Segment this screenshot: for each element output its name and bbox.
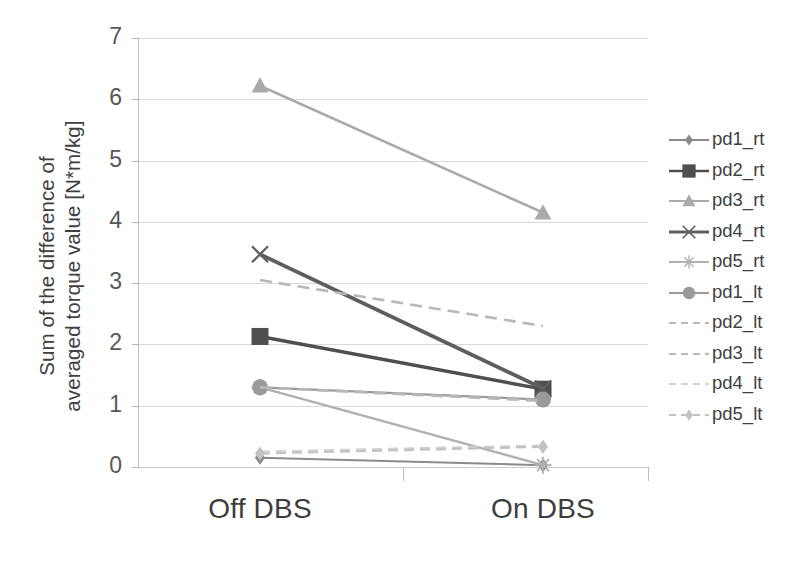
legend-label-pd5_lt: pd5_lt [710, 403, 762, 425]
legend-marker-pd1_rt-icon [668, 130, 710, 148]
y-tick-mark-2 [132, 344, 139, 345]
x-tick-label-on-dbs: On DBS [433, 493, 653, 525]
y-tick-label-6: 6 [12, 84, 122, 111]
legend-marker-pd2_rt-icon [668, 161, 710, 179]
series-pd4_rt [252, 246, 551, 396]
legend-label-pd1_rt: pd1_rt [710, 128, 764, 150]
legend-item-pd5_rt[interactable]: pd5_rt [668, 246, 812, 277]
legend-marker-pd2_lt-icon [668, 313, 710, 331]
legend-label-pd2_rt: pd2_rt [710, 159, 764, 181]
legend-marker-pd5_rt-icon [668, 252, 710, 270]
y-tick-label-5: 5 [12, 146, 122, 173]
x-tick-mark-0 [403, 467, 404, 481]
legend-marker-pd1_lt-icon [668, 283, 710, 301]
x-tick-mark-1 [648, 467, 649, 481]
legend-item-pd4_rt[interactable]: pd4_rt [668, 216, 812, 247]
legend-item-pd2_lt[interactable]: pd2_lt [668, 307, 812, 338]
legend-marker-pd4_lt-icon [668, 374, 710, 392]
y-tick-label-1: 1 [12, 391, 122, 418]
y-tick-mark-1 [132, 406, 139, 407]
y-tick-label-3: 3 [12, 268, 122, 295]
y-tick-mark-3 [132, 283, 139, 284]
y-tick-mark-7 [132, 38, 139, 39]
y-tick-label-0: 0 [12, 452, 122, 479]
legend-item-pd1_lt[interactable]: pd1_lt [668, 277, 812, 308]
y-tick-label-7: 7 [12, 23, 122, 50]
legend-label-pd2_lt: pd2_lt [710, 311, 762, 333]
legend-label-pd4_lt: pd4_lt [710, 372, 762, 394]
series-pd2_rt [252, 328, 552, 398]
chart-container: Sum of the difference of averaged torque… [0, 0, 812, 573]
legend-label-pd3_lt: pd3_lt [710, 342, 762, 364]
series-pd3_rt [252, 77, 552, 219]
gridline-y-0 [138, 467, 648, 468]
legend-marker-pd3_rt-icon [668, 191, 710, 209]
legend-item-pd3_rt[interactable]: pd3_rt [668, 185, 812, 216]
x-tick-label-off-dbs: Off DBS [150, 493, 370, 525]
y-tick-mark-6 [132, 99, 139, 100]
legend-label-pd4_rt: pd4_rt [710, 220, 764, 242]
y-tick-mark-4 [132, 222, 139, 223]
legend-label-pd5_rt: pd5_rt [710, 250, 764, 272]
legend-marker-pd4_rt-icon [668, 222, 710, 240]
legend-item-pd3_lt[interactable]: pd3_lt [668, 338, 812, 369]
legend-item-pd1_rt[interactable]: pd1_rt [668, 124, 812, 155]
y-tick-mark-5 [132, 161, 139, 162]
legend-marker-pd5_lt-icon [668, 405, 710, 423]
y-tick-label-4: 4 [12, 207, 122, 234]
legend-label-pd1_lt: pd1_lt [710, 281, 762, 303]
series-pd3_lt [260, 280, 543, 326]
legend-item-pd5_lt[interactable]: pd5_lt [668, 399, 812, 430]
legend-marker-pd3_lt-icon [668, 344, 710, 362]
y-tick-label-2: 2 [12, 329, 122, 356]
data-series-layer [138, 38, 648, 467]
legend-label-pd3_rt: pd3_rt [710, 189, 764, 211]
legend-item-pd2_rt[interactable]: pd2_rt [668, 155, 812, 186]
y-axis-tick-labels: 76543210 [0, 38, 122, 467]
chart-legend: pd1_rtpd2_rtpd3_rtpd4_rtpd5_rtpd1_ltpd2_… [668, 124, 812, 429]
y-tick-mark-0 [132, 467, 139, 468]
legend-item-pd4_lt[interactable]: pd4_lt [668, 368, 812, 399]
